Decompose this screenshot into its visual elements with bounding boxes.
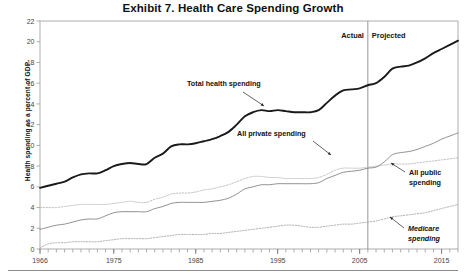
projected-period-label: Projected <box>372 31 406 40</box>
annotation-total-health-spending-leader <box>243 92 264 106</box>
actual-period-label: Actual <box>341 31 364 40</box>
y-axis-tick-label: 8 <box>31 163 35 170</box>
x-axis-tick-label: 2015 <box>434 257 450 264</box>
footer-divider-rule <box>8 270 458 271</box>
x-axis-tick-label: 2005 <box>352 257 368 264</box>
annotation-all-private-spending-leader <box>313 141 331 155</box>
annotation-all-private-spending: All private spending <box>237 129 306 138</box>
y-axis-tick-label: 2 <box>31 225 35 232</box>
series-line-2 <box>40 158 458 208</box>
y-axis-tick-label: 4 <box>31 204 35 211</box>
annotation-all-public-spending-line2: spending <box>409 178 441 187</box>
y-axis-tick-label: 14 <box>27 101 35 108</box>
annotation-medicare-spending-line2: spending <box>408 234 441 243</box>
y-axis-tick-label: 6 <box>31 183 35 190</box>
y-axis-tick-label: 12 <box>27 121 35 128</box>
x-axis-tick-label: 1995 <box>270 257 286 264</box>
y-axis-tick-label: 18 <box>27 59 35 66</box>
x-axis-tick-label: 1966 <box>32 257 48 264</box>
y-axis-tick-label: 22 <box>27 18 35 25</box>
y-axis-tick-label: 10 <box>27 142 35 149</box>
y-axis-tick-label: 16 <box>27 80 35 87</box>
x-axis-tick-label: 1985 <box>188 257 204 264</box>
line-chart-plot: 0246810121416182022196619751985199520052… <box>0 0 466 278</box>
annotation-total-health-spending-arrowhead <box>261 103 264 106</box>
series-line-4 <box>40 204 458 248</box>
y-axis-tick-label: 0 <box>31 246 35 253</box>
annotation-total-health-spending: Total health spending <box>187 79 261 88</box>
y-axis-tick-label: 20 <box>27 38 35 45</box>
series-line-3 <box>40 133 458 229</box>
x-axis-tick-label: 1975 <box>106 257 122 264</box>
annotation-medicare-spending-line1: Medicare <box>408 224 439 233</box>
chart-figure: Exhibit 7. Health Care Spending Growth H… <box>0 0 466 278</box>
annotation-all-public-spending-line1: All public <box>409 168 441 177</box>
